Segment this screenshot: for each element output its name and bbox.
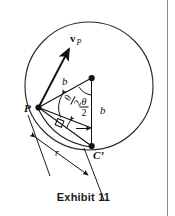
label-dimension-r: r xyxy=(55,147,59,158)
theta-over-two-upright: θ 2 xyxy=(80,96,89,119)
label-point-cprime: C’ xyxy=(93,149,104,161)
point-p-dot xyxy=(35,104,41,110)
page-column-rule xyxy=(167,0,168,216)
velocity-vector-label: v xyxy=(70,32,76,44)
label-radius-right-b: b xyxy=(100,104,106,116)
figure-caption: Exhibit 11 xyxy=(0,191,167,203)
label-point-p: P xyxy=(24,102,31,114)
exhibit-figure: v P b b θ 2 θ 2 P C’ r Exhibit 11 xyxy=(0,0,175,216)
main-circle xyxy=(25,22,153,150)
theta-symbol-upright: θ xyxy=(82,96,87,107)
velocity-vector-subscript: P xyxy=(76,38,82,47)
geometry-diagram: v P b b θ 2 θ 2 P C’ r xyxy=(0,0,175,216)
angle-arc-lower xyxy=(67,120,71,128)
label-radius-upper-b: b xyxy=(62,75,68,87)
denominator-upright: 2 xyxy=(82,107,87,118)
angle-arc-center xyxy=(79,87,92,95)
point-center-dot xyxy=(89,75,95,81)
